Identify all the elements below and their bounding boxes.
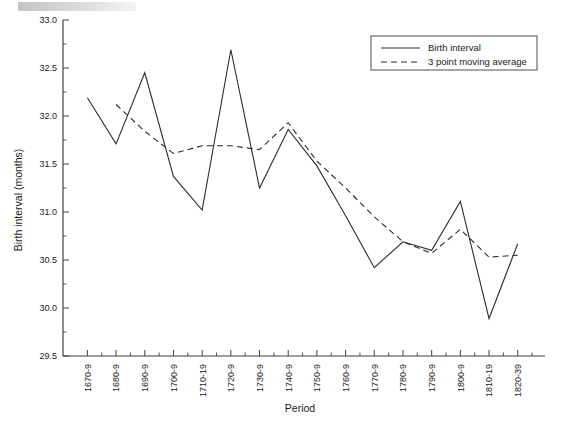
x-tick-label: 1740-9 bbox=[284, 364, 294, 392]
x-tick-label: 1790-9 bbox=[427, 364, 437, 392]
y-tick-label: 31.0 bbox=[39, 207, 57, 217]
y-tick-label: 30.5 bbox=[39, 255, 57, 265]
y-axis-title: Birth interval (months) bbox=[12, 149, 24, 252]
series-birth-interval bbox=[87, 50, 517, 319]
y-tick-label: 33.0 bbox=[39, 15, 57, 25]
x-axis-title: Period bbox=[285, 402, 316, 414]
x-tick-label: 1710-19 bbox=[198, 364, 208, 397]
x-tick-label: 1720-9 bbox=[226, 364, 236, 392]
x-tick-label: 1690-9 bbox=[140, 364, 150, 392]
y-axis-ticks: 33.032.532.031.531.030.530.029.5 bbox=[39, 15, 69, 361]
x-tick-label: 1770-9 bbox=[370, 364, 380, 392]
y-tick-label: 32.5 bbox=[39, 63, 57, 73]
scan-artifact bbox=[18, 2, 136, 11]
x-tick-label: 1760-9 bbox=[341, 364, 351, 392]
series-moving-average bbox=[116, 104, 518, 257]
x-tick-label: 1680-9 bbox=[111, 364, 121, 392]
y-tick-label: 32.0 bbox=[39, 111, 57, 121]
x-tick-label: 1780-9 bbox=[398, 364, 408, 392]
x-tick-label: 1670-9 bbox=[83, 364, 93, 392]
legend-label-birth-interval: Birth interval bbox=[428, 42, 481, 53]
chart-figure: Birth interval (months) Period 33.032.53… bbox=[0, 0, 566, 425]
x-tick-label: 1800-9 bbox=[456, 364, 466, 392]
y-tick-label: 30.0 bbox=[39, 303, 57, 313]
x-tick-label: 1820-39 bbox=[513, 364, 523, 397]
line-chart: Birth interval (months) Period 33.032.53… bbox=[0, 0, 566, 425]
legend-label-moving-average: 3 point moving average bbox=[428, 56, 527, 67]
x-tick-label: 1750-9 bbox=[312, 364, 322, 392]
x-axis-ticks: 1670-91680-91690-91700-91710-191720-9173… bbox=[83, 350, 532, 397]
chart-legend: Birth interval 3 point moving average bbox=[371, 36, 537, 70]
y-tick-label: 31.5 bbox=[39, 159, 57, 169]
y-tick-label: 29.5 bbox=[39, 351, 57, 361]
x-tick-label: 1810-19 bbox=[484, 364, 494, 397]
x-tick-label: 1730-9 bbox=[255, 364, 265, 392]
x-tick-label: 1700-9 bbox=[169, 364, 179, 392]
